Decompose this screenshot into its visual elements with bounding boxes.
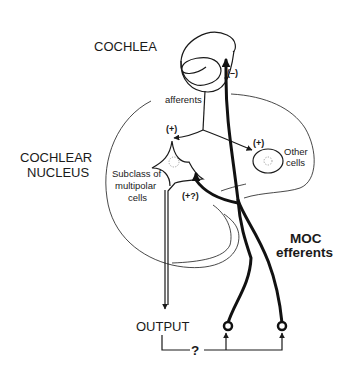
moc-label-line1: MOC: [290, 231, 322, 246]
cochlear-nucleus-label-line2: NUCLEUS: [27, 165, 89, 180]
moc-collateral-sign: (+?): [182, 191, 199, 201]
other-cells-label-line1: Other: [284, 146, 308, 157]
moc-label-line2: efferents: [276, 245, 333, 260]
question-mark: ?: [191, 343, 199, 358]
cochlear-circuit-diagram: COCHLEA COCHLEAR NUCLEUS afferents Subcl…: [0, 0, 344, 372]
subclass-label-line1: Subclass of: [112, 168, 161, 179]
other-cells-label-line2: cells: [286, 157, 305, 168]
afferent-to-other: [203, 130, 252, 150]
other-cell: [253, 149, 283, 173]
afferent-to-multipolar: [174, 130, 203, 138]
cochlea-inhibition-sign: (–): [227, 68, 238, 78]
output-feedback-loop: [162, 333, 282, 350]
moc-efferent-fibers: [196, 60, 286, 330]
output-label: OUTPUT: [136, 319, 190, 334]
cochlear-nucleus-label-line1: COCHLEAR: [20, 150, 92, 165]
cochlea-label: COCHLEA: [94, 39, 157, 54]
subclass-label-line3: cells: [128, 192, 147, 203]
multipolar-excitation-sign: (+): [166, 124, 177, 134]
afferent-trunk: [203, 91, 205, 130]
other-excitation-sign: (+): [253, 138, 264, 148]
subclass-label-line2: multipolar: [115, 180, 156, 191]
afferents-label: afferents: [165, 94, 202, 105]
multipolar-cell: [152, 141, 203, 305]
